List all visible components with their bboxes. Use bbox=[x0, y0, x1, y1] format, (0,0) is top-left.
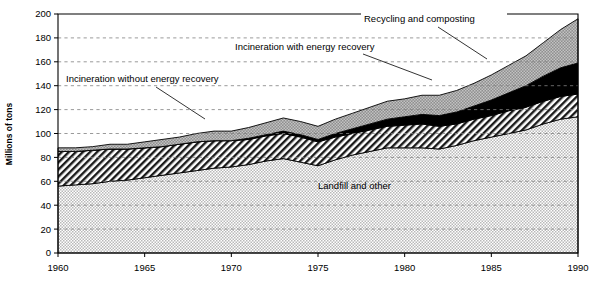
y-tick-label-200: 200 bbox=[35, 8, 51, 19]
y-tick-label-80: 80 bbox=[40, 152, 51, 163]
y-tick-label-180: 180 bbox=[35, 32, 51, 43]
y-tick-label-120: 120 bbox=[35, 104, 51, 115]
x-tick-label-1990: 1990 bbox=[567, 262, 588, 273]
x-tick-label-1965: 1965 bbox=[134, 262, 155, 273]
chart-container: 020406080100120140160180200 196019651970… bbox=[0, 0, 616, 299]
y-tick-label-140: 140 bbox=[35, 80, 51, 91]
x-tick-label-1985: 1985 bbox=[481, 262, 502, 273]
y-tick-label-100: 100 bbox=[35, 128, 51, 139]
annotation-label-incineration-without: Incineration without energy recovery bbox=[66, 73, 219, 84]
y-axis-title: Millions of tons bbox=[4, 103, 14, 166]
annotation-landfill: Landfill and other bbox=[318, 180, 391, 191]
y-tick-label-160: 160 bbox=[35, 56, 51, 67]
y-tick-label-40: 40 bbox=[40, 200, 51, 211]
y-tick-label-60: 60 bbox=[40, 176, 51, 187]
y-tick-label-0: 0 bbox=[46, 247, 51, 258]
annotation-label-recycling: Recycling and composting bbox=[364, 13, 475, 24]
x-tick-label-1980: 1980 bbox=[394, 262, 415, 273]
x-tick-label-1975: 1975 bbox=[307, 262, 328, 273]
y-tick-label-20: 20 bbox=[40, 224, 51, 235]
annotation-label-landfill: Landfill and other bbox=[318, 180, 391, 191]
stacked-area-chart: 020406080100120140160180200 196019651970… bbox=[0, 0, 616, 299]
annotation-label-incineration-with: Incineration with energy recovery bbox=[235, 41, 375, 52]
x-tick-label-1960: 1960 bbox=[47, 262, 68, 273]
x-tick-label-1970: 1970 bbox=[221, 262, 242, 273]
